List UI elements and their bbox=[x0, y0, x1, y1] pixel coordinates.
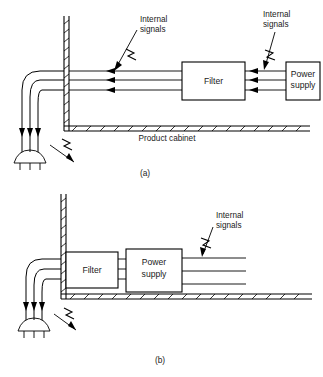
caption-a: (a) bbox=[140, 168, 150, 178]
filter-label-a: Filter bbox=[204, 76, 223, 86]
power-supply-label-a-line1: Power bbox=[291, 69, 315, 79]
filter-label-b: Filter bbox=[82, 265, 101, 275]
cable-flow-arrows-a bbox=[19, 128, 41, 137]
escaping-noise-arrow-b bbox=[54, 308, 76, 330]
power-supply-label-b-line2: supply bbox=[142, 269, 168, 279]
internal-signals-left-label-line2: signals bbox=[140, 25, 166, 34]
internal-signal-lines-b bbox=[182, 258, 246, 284]
mains-plug-icon-a bbox=[14, 150, 46, 170]
panel-b: Filter Power supply Internal signals bbox=[18, 194, 312, 365]
technical-diagram-svg: Filter Power supply Internal signals bbox=[0, 0, 323, 377]
caption-b: (b) bbox=[155, 355, 165, 365]
cabinet-wall-floor-a bbox=[64, 126, 310, 131]
internal-signals-label-b-line2: signals bbox=[216, 221, 242, 230]
cabinet-wall-vertical-a bbox=[64, 16, 69, 131]
power-supply-label-b-line1: Power bbox=[142, 257, 166, 267]
internal-signals-right-a: Internal signals bbox=[263, 10, 290, 70]
power-supply-box-a: Power supply bbox=[286, 62, 320, 100]
cabinet-wall-vertical-b bbox=[61, 194, 66, 299]
mains-cable-bundle-b bbox=[23, 259, 61, 320]
mains-conductors-mid-b bbox=[118, 259, 126, 279]
filter-box-b: Filter bbox=[66, 252, 118, 288]
filter-box-a: Filter bbox=[182, 62, 245, 100]
product-cabinet-label: Product cabinet bbox=[139, 134, 197, 143]
cable-flow-arrows-b bbox=[23, 302, 45, 311]
panel-a: Filter Power supply Internal signals bbox=[14, 10, 320, 178]
mains-plug-icon-b bbox=[18, 318, 50, 338]
mains-conductors-left-a bbox=[69, 68, 182, 93]
power-supply-label-a-line2: supply bbox=[291, 80, 317, 90]
power-supply-box-b: Power supply bbox=[126, 249, 182, 292]
cabinet-wall-floor-b bbox=[61, 294, 312, 299]
internal-signals-right-label-line1: Internal bbox=[263, 10, 290, 19]
internal-signals-label-b-line1: Internal bbox=[216, 211, 243, 220]
mains-conductors-right-a bbox=[245, 68, 286, 93]
mains-cable-bundle-a bbox=[19, 71, 64, 152]
internal-signals-b: Internal signals bbox=[200, 211, 243, 257]
internal-signals-left-a: Internal signals bbox=[114, 15, 167, 71]
figure-container: Filter Power supply Internal signals bbox=[0, 0, 323, 377]
internal-signals-right-label-line2: signals bbox=[263, 20, 289, 29]
escaping-noise-arrow-a bbox=[50, 139, 74, 162]
internal-signals-left-label-line1: Internal bbox=[140, 15, 167, 24]
